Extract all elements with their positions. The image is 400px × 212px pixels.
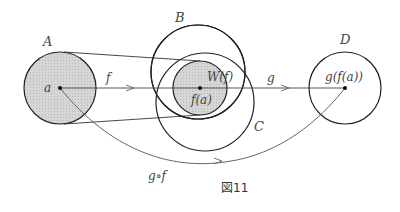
label-point-a: a — [44, 81, 51, 95]
label-point-g-f-a: g(f(a)) — [325, 70, 363, 84]
point-a — [58, 86, 62, 90]
label-map-g: g — [267, 71, 275, 85]
label-map-composite: g∘f — [148, 169, 169, 183]
tangent-line-bottom — [64, 115, 200, 124]
label-set-b: B — [174, 10, 185, 25]
composition-diagram: A B C D a W(f) f(a) g(f(a)) f g g∘f 図11 — [0, 0, 400, 212]
label-image-wf: W(f) — [207, 70, 233, 84]
label-map-f: f — [105, 71, 113, 85]
point-f-a — [198, 86, 202, 90]
figure-caption: 図11 — [221, 181, 248, 195]
point-g-f-a — [343, 86, 347, 90]
label-set-c: C — [254, 119, 264, 134]
label-point-f-a: f(a) — [190, 93, 212, 107]
label-set-d: D — [339, 32, 351, 47]
label-set-a: A — [42, 34, 52, 49]
